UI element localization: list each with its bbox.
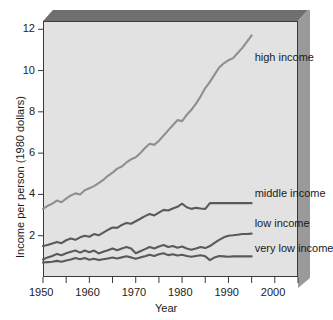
x-tick-label: 1980 [168, 286, 192, 298]
x-tick-label: 2000 [261, 286, 285, 298]
x-tick-label: 1990 [214, 286, 238, 298]
y-tick-label: 10 [9, 64, 35, 76]
series-label-high-income: high income [255, 51, 314, 63]
series-label-middle-income: middle income [255, 187, 326, 199]
y-tick-label: 12 [9, 22, 35, 34]
x-tick-label: 1950 [29, 286, 53, 298]
series-label-very-low-income: very low income [255, 242, 333, 254]
x-axis-title: Year [155, 302, 177, 314]
x-tick-label: 1970 [122, 286, 146, 298]
x-axis-ticks [43, 277, 298, 283]
x-tick-label: 1960 [75, 286, 99, 298]
series-label-low-income: low income [255, 217, 310, 229]
y-axis-title: Income per person (1980 dollars) [14, 96, 26, 258]
data-series-lines [43, 35, 252, 262]
y-axis-ticks [38, 29, 43, 235]
